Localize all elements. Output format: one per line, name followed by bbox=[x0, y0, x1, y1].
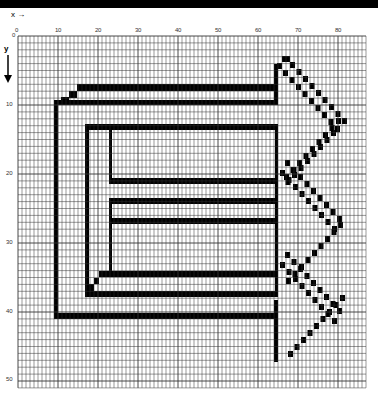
chevron-bottom-outer bbox=[324, 294, 329, 300]
chevron-mid-inner bbox=[280, 170, 285, 176]
chevron-inner bbox=[283, 70, 288, 76]
chevron-down bbox=[325, 137, 330, 143]
inner-mid-bar bbox=[109, 198, 278, 204]
chevron-bottom-outer bbox=[311, 280, 316, 286]
chevron-mid-outer bbox=[331, 209, 336, 215]
chevron-outer bbox=[303, 76, 308, 82]
chevron-down bbox=[299, 165, 304, 171]
chevron-bottom-inner bbox=[280, 262, 285, 268]
middle-frame-left bbox=[85, 124, 89, 297]
chevron-mid-outer bbox=[324, 202, 329, 208]
chevron-outer bbox=[316, 90, 321, 96]
chevron-mid-inner bbox=[287, 177, 292, 183]
chevron-bottom-inner bbox=[313, 297, 318, 303]
right-edge bbox=[275, 124, 278, 297]
chevron-mid-down bbox=[319, 243, 324, 249]
chevron-bottom-outer bbox=[305, 273, 310, 279]
inner-upper-left bbox=[109, 124, 112, 184]
chevron-inner bbox=[303, 91, 308, 97]
inner-lower-left bbox=[109, 218, 112, 277]
pixel-grid bbox=[0, 0, 378, 399]
chevron-down bbox=[331, 130, 336, 136]
chevron-mid-inner bbox=[319, 212, 324, 218]
arrow-spine-bottom bbox=[274, 300, 278, 362]
chevron-bottom-down bbox=[288, 351, 293, 357]
chevron-outer bbox=[297, 69, 302, 75]
chevron-mid-outer bbox=[311, 188, 316, 194]
chevron-inner bbox=[329, 119, 334, 125]
chevron-mid-inner bbox=[313, 205, 318, 211]
chevron-mid-outer bbox=[305, 181, 310, 187]
chevron-bottom-inner bbox=[287, 269, 292, 275]
inner-lower-top bbox=[109, 218, 278, 224]
chevron-bottom-down bbox=[295, 344, 300, 350]
chevron-inner bbox=[296, 84, 301, 90]
outer-top-bar bbox=[77, 84, 275, 91]
chevron-mid-down bbox=[312, 250, 317, 256]
